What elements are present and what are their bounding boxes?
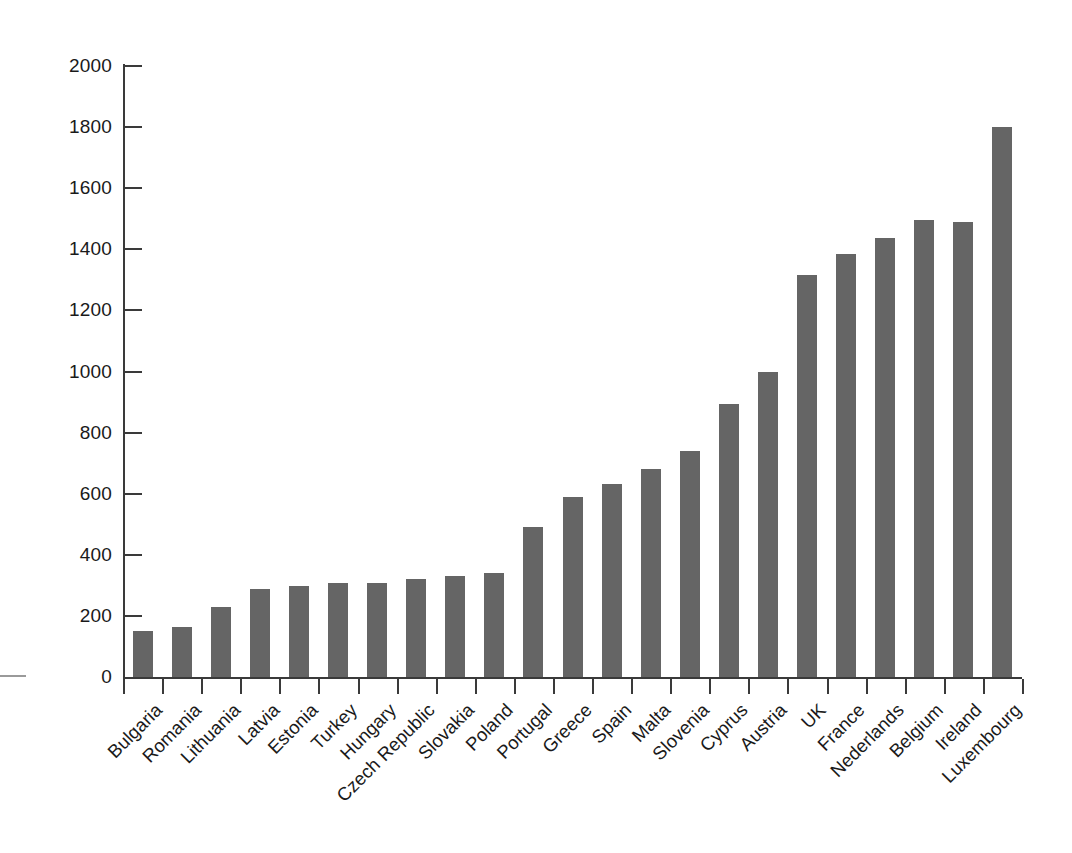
x-axis-tick bbox=[318, 679, 320, 694]
x-axis-tick bbox=[670, 679, 672, 694]
y-axis-tick bbox=[125, 248, 142, 250]
bar bbox=[758, 372, 778, 677]
x-axis-tick bbox=[631, 679, 633, 694]
page-edge-rule-artifact bbox=[0, 675, 26, 677]
y-axis-tick bbox=[125, 309, 142, 311]
y-axis-tick bbox=[125, 432, 142, 434]
x-axis-tick bbox=[514, 679, 516, 694]
x-axis-tick bbox=[201, 679, 203, 694]
bar bbox=[953, 222, 973, 677]
y-axis-tick-label: 600 bbox=[50, 484, 112, 503]
bar bbox=[406, 579, 426, 677]
bar bbox=[445, 576, 465, 677]
bar bbox=[523, 527, 543, 677]
bar bbox=[484, 573, 504, 677]
y-axis-tick bbox=[125, 126, 142, 128]
x-axis-tick bbox=[162, 679, 164, 694]
y-axis-tick-label: 1400 bbox=[50, 239, 112, 258]
y-axis-tick-label: 1000 bbox=[50, 362, 112, 381]
bar bbox=[602, 484, 622, 677]
bar bbox=[289, 586, 309, 677]
y-axis-tick bbox=[125, 187, 142, 189]
x-axis-tick bbox=[475, 679, 477, 694]
y-axis-tick-label: 1200 bbox=[50, 300, 112, 319]
bar bbox=[563, 497, 583, 677]
y-axis-tick-label-text: 600 bbox=[50, 484, 112, 503]
bar bbox=[836, 254, 856, 677]
y-axis-tick-label-text: 400 bbox=[50, 545, 112, 564]
x-axis-label-text: Spain bbox=[588, 700, 636, 748]
x-axis-tick bbox=[123, 679, 125, 694]
y-axis-tick-label: 800 bbox=[50, 423, 112, 442]
y-axis-tick-label-text: 800 bbox=[50, 423, 112, 442]
y-axis-tick-label: 400 bbox=[50, 545, 112, 564]
x-axis-tick bbox=[553, 679, 555, 694]
y-axis-tick-label-text: 200 bbox=[50, 606, 112, 625]
x-axis-tick bbox=[983, 679, 985, 694]
y-axis-tick bbox=[125, 493, 142, 495]
bar bbox=[641, 469, 661, 677]
bar bbox=[914, 220, 934, 677]
x-axis-tick bbox=[748, 679, 750, 694]
x-axis-tick bbox=[905, 679, 907, 694]
x-axis-tick bbox=[358, 679, 360, 694]
y-axis-tick-label: 1600 bbox=[50, 178, 112, 197]
y-axis-tick bbox=[125, 615, 142, 617]
x-axis-tick bbox=[944, 679, 946, 694]
y-axis-tick-label: 200 bbox=[50, 606, 112, 625]
x-axis-tick bbox=[1022, 679, 1024, 694]
bar bbox=[875, 238, 895, 677]
y-axis-tick bbox=[125, 554, 142, 556]
y-axis-tick bbox=[125, 371, 142, 373]
y-axis-tick-label-text: 2000 bbox=[50, 56, 112, 75]
x-axis-tick bbox=[240, 679, 242, 694]
x-axis-tick bbox=[279, 679, 281, 694]
x-axis-tick bbox=[787, 679, 789, 694]
bar bbox=[797, 275, 817, 677]
bar bbox=[172, 627, 192, 677]
x-axis-tick bbox=[709, 679, 711, 694]
bar bbox=[211, 607, 231, 677]
bar bbox=[367, 583, 387, 677]
x-axis-tick bbox=[436, 679, 438, 694]
bar bbox=[328, 583, 348, 677]
bar-chart: 0200400600800100012001400160018002000 Bu… bbox=[0, 0, 1072, 853]
bar bbox=[992, 127, 1012, 677]
x-axis-line bbox=[123, 677, 1022, 679]
y-axis-tick-label-text: 1000 bbox=[50, 362, 112, 381]
y-axis-tick bbox=[125, 65, 142, 67]
x-axis-tick bbox=[592, 679, 594, 694]
y-axis-tick-label-text: 0 bbox=[50, 667, 112, 686]
bar bbox=[250, 589, 270, 677]
bar bbox=[680, 451, 700, 677]
x-axis-tick bbox=[866, 679, 868, 694]
y-axis-tick-label-text: 1400 bbox=[50, 239, 112, 258]
y-axis-tick-label: 0 bbox=[50, 667, 112, 686]
x-axis-tick bbox=[397, 679, 399, 694]
x-axis-tick bbox=[827, 679, 829, 694]
y-axis-tick-label: 2000 bbox=[50, 56, 112, 75]
bar bbox=[719, 404, 739, 677]
y-axis-tick-label: 1800 bbox=[50, 117, 112, 136]
y-axis-tick-label-text: 1600 bbox=[50, 178, 112, 197]
y-axis-tick-label-text: 1800 bbox=[50, 117, 112, 136]
bar bbox=[133, 631, 153, 677]
y-axis-tick-label-text: 1200 bbox=[50, 300, 112, 319]
